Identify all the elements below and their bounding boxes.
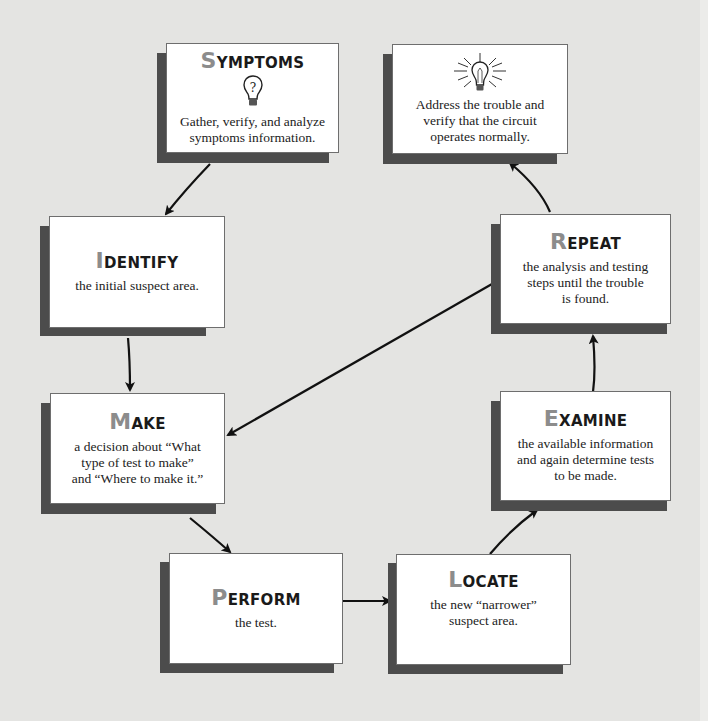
arrow-repeat-to-make <box>228 284 492 435</box>
step-box: PERFORM the test. <box>169 553 343 664</box>
arrow-make-to-perform <box>190 518 230 552</box>
arrow-examine-to-repeat <box>593 336 595 392</box>
step-description: the initial suspect area. <box>75 278 199 294</box>
step-description: the analysis and testing steps until the… <box>523 259 649 307</box>
step-box: MAKE a decision about “What type of test… <box>50 393 225 504</box>
step-description: Address the trouble and verify that the … <box>416 97 545 145</box>
step-title: MAKE <box>109 411 166 433</box>
step-title: PERFORM <box>211 587 301 609</box>
step-description: a decision about “What type of test to m… <box>72 439 204 487</box>
arrow-locate-to-examine <box>490 510 537 554</box>
step-box: SYMPTOMS ? Gather, verify, and analyze s… <box>166 43 339 153</box>
arrow-identify-to-make <box>128 338 130 390</box>
step-title: SYMPTOMS <box>201 50 305 72</box>
step-box: Address the trouble and verify that the … <box>392 44 568 154</box>
step-description: the available information and again dete… <box>517 436 654 484</box>
step-description: the test. <box>235 615 277 631</box>
arrow-symptoms-to-identify <box>166 164 210 214</box>
step-box: LOCATE the new “narrower” suspect area. <box>396 554 571 665</box>
connector-arrows <box>0 0 708 721</box>
step-box: REPEAT the analysis and testing steps un… <box>500 214 671 324</box>
step-title: LOCATE <box>448 569 519 591</box>
step-box: IDENTIFY the initial suspect area. <box>49 216 225 328</box>
step-title: REPEAT <box>550 231 621 253</box>
step-title: IDENTIFY <box>96 250 179 272</box>
step-description: the new “narrower” suspect area. <box>430 597 536 629</box>
arrow-repeat-to-address <box>510 163 550 212</box>
question-bulb-icon: ? <box>242 74 264 110</box>
step-description: Gather, verify, and analyze symptoms inf… <box>180 114 325 146</box>
step-box: EXAMINE the available information and ag… <box>500 391 671 501</box>
step-title: EXAMINE <box>544 408 628 430</box>
lit-bulb-icon <box>450 53 510 97</box>
svg-text:?: ? <box>249 81 255 95</box>
